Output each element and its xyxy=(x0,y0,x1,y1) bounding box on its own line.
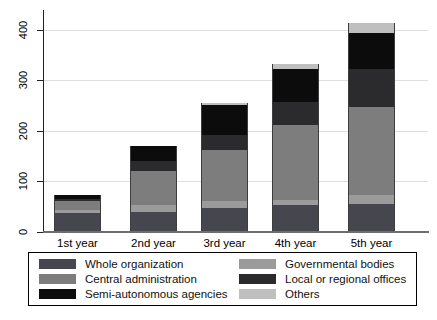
legend-swatch-icon xyxy=(239,259,276,269)
bar-segment xyxy=(131,161,176,171)
bar-segment xyxy=(202,150,247,201)
bar-1st-year xyxy=(54,195,101,232)
legend-swatch-icon xyxy=(239,274,276,284)
bar-2nd-year xyxy=(130,146,177,232)
y-tick-label: 300 xyxy=(17,71,29,89)
legend-swatch-icon xyxy=(39,259,76,269)
bar-segment xyxy=(349,195,394,204)
legend-entry: Others xyxy=(239,288,410,300)
bar-segment xyxy=(55,201,100,210)
bar-segment xyxy=(273,102,318,125)
x-tick-label: 1st year xyxy=(57,237,98,249)
x-tick-label: 5th year xyxy=(351,237,393,249)
y-tick-label: 0 xyxy=(17,229,29,235)
legend-label: Central administration xyxy=(85,273,197,285)
bar-segment xyxy=(55,213,100,232)
x-tick-label: 2nd year xyxy=(131,237,176,249)
bar-segment xyxy=(202,135,247,150)
bar-segment xyxy=(349,23,394,33)
legend-swatch-icon xyxy=(239,289,276,299)
bar-segment xyxy=(131,171,176,205)
legend-entry: Governmental bodies xyxy=(239,258,410,270)
legend-label: Whole organization xyxy=(85,258,183,270)
y-tick-label: 100 xyxy=(17,172,29,190)
legend-entry: Whole organization xyxy=(39,258,239,270)
bar-segment xyxy=(202,201,247,208)
bar-segment xyxy=(131,212,176,232)
bar-5th-year xyxy=(348,23,395,232)
bar-segment xyxy=(273,125,318,200)
x-tick-label: 3rd year xyxy=(203,237,245,249)
bar-3rd-year xyxy=(201,103,248,232)
x-tick-label: 4th year xyxy=(275,237,317,249)
y-axis-line xyxy=(43,10,44,233)
bar-segment xyxy=(273,69,318,102)
legend-swatch-icon xyxy=(39,274,76,284)
legend-entry: Semi-autonomous agencies xyxy=(39,288,239,300)
y-tick-label: 400 xyxy=(17,21,29,39)
bar-segment xyxy=(202,208,247,232)
legend-swatch-icon xyxy=(39,289,76,299)
plot-area: 0100200300400 xyxy=(43,12,428,232)
legend-label: Governmental bodies xyxy=(285,258,394,270)
x-axis-line xyxy=(43,231,429,233)
bar-4th-year xyxy=(272,64,319,232)
bar-segment xyxy=(202,105,247,135)
bar-segment xyxy=(349,69,394,107)
bar-segment xyxy=(349,33,394,69)
bar-segment xyxy=(131,146,176,161)
legend-label: Others xyxy=(285,288,320,300)
bar-segment xyxy=(349,204,394,232)
legend-entry: Local or regional offices xyxy=(239,273,410,285)
bar-segment xyxy=(273,205,318,232)
legend-entry: Central administration xyxy=(39,273,239,285)
bar-segment xyxy=(349,107,394,194)
chart-legend: Whole organizationCentral administration… xyxy=(28,252,417,306)
legend-label: Semi-autonomous agencies xyxy=(85,288,228,300)
legend-label: Local or regional offices xyxy=(285,273,406,285)
stacked-bar-chart: 0100200300400 1st year2nd year3rd year4t… xyxy=(0,0,437,320)
y-tick-label: 200 xyxy=(17,122,29,140)
